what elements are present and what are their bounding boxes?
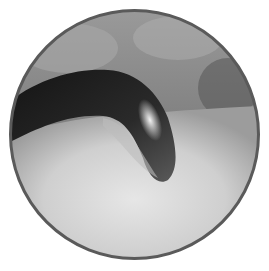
endoscopic-view [8, 8, 261, 261]
endoscopic-image [8, 8, 261, 261]
